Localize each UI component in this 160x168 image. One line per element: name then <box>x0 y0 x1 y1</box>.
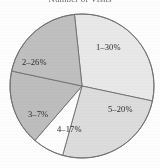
pie-chart-svg <box>0 0 160 168</box>
pie-slice-label-2: 2–26% <box>22 58 47 67</box>
pie-chart-figure: Number of Visits 1–30%2–26%3–7%4–17%5–20… <box>0 0 160 168</box>
pie-slice-label-4: 4–17% <box>57 125 82 134</box>
pie-slice-label-3: 3–7% <box>28 110 48 119</box>
pie-slices-group <box>10 14 154 158</box>
pie-slice-label-5: 5–20% <box>108 105 133 114</box>
pie-slice-label-1: 1–30% <box>96 43 121 52</box>
